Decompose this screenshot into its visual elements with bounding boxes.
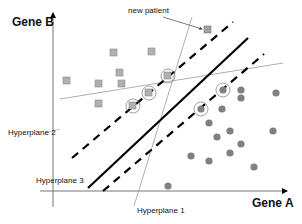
svm-diagram: [0, 0, 302, 224]
y-axis-label: Gene B: [12, 15, 54, 29]
support-vector-rings: [126, 69, 230, 116]
hyperplane-1-line: [134, 17, 192, 206]
hyperplane-1-label: Hyperplane 1: [137, 206, 185, 215]
hyperplane-2-line: [60, 63, 283, 99]
class-squares: [63, 48, 171, 109]
hyperplane-3-label: Hyperplane 3: [36, 176, 84, 185]
new-patient-arrow: [163, 17, 202, 29]
new-patient-label: new patient: [128, 6, 169, 15]
new-patient-point: [204, 26, 211, 33]
hyperplane-2-label: Hyperplane 2: [8, 128, 56, 137]
class-circles: [164, 86, 279, 189]
hyperplane-3-line: [88, 38, 248, 188]
x-axis-label: Gene A: [252, 196, 294, 210]
upper-margin-line: [72, 22, 233, 158]
lower-margin-line: [103, 54, 264, 191]
